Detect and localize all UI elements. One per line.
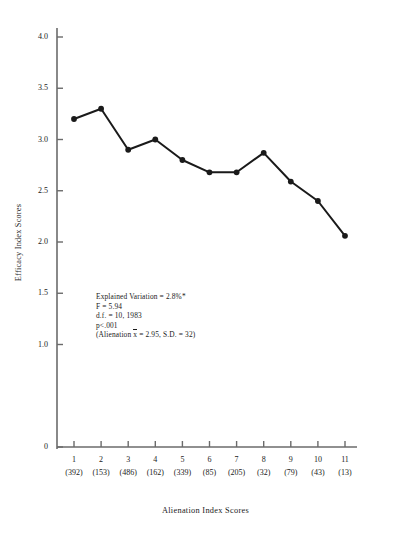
x-axis-tick-label: 11(13) bbox=[325, 455, 365, 477]
data-point-marker[interactable] bbox=[98, 106, 104, 112]
data-point-marker[interactable] bbox=[125, 147, 131, 153]
x-axis-tick-sample-count: (13) bbox=[325, 468, 365, 478]
x-bar-symbol: x bbox=[133, 330, 137, 340]
data-point-marker[interactable] bbox=[288, 179, 294, 185]
data-point-marker[interactable] bbox=[315, 198, 321, 204]
y-axis-tick-label: 0 bbox=[14, 443, 48, 451]
annotation-degrees-of-freedom: d.f. = 10, 1983 bbox=[96, 311, 195, 321]
annotation-alienation-mean: (Alienation x = 2.95, S.D. = 32) bbox=[96, 330, 195, 340]
data-point-marker[interactable] bbox=[234, 169, 240, 175]
y-axis-tick-label: 1.0 bbox=[14, 341, 48, 349]
annotation-explained-variation: Explained Variation = 2.8%* bbox=[96, 292, 195, 302]
x-axis-tick-number: 11 bbox=[325, 455, 365, 465]
annotation-p-value: p<.001 bbox=[96, 321, 195, 331]
y-axis-tick-label: 3.5 bbox=[14, 84, 48, 92]
annotation-f-statistic: F = 5.94 bbox=[96, 302, 195, 312]
chart-figure: Efficacy Index Scores Alienation Index S… bbox=[0, 0, 411, 541]
annotation-mean-suffix: = 2.95, S.D. = 32) bbox=[137, 330, 195, 339]
data-point-marker[interactable] bbox=[152, 137, 158, 143]
y-axis-tick-label: 4.0 bbox=[14, 33, 48, 41]
statistics-annotation: Explained Variation = 2.8%* F = 5.94 d.f… bbox=[96, 292, 195, 340]
y-axis-tick-label: 1.5 bbox=[14, 289, 48, 297]
data-point-marker[interactable] bbox=[71, 116, 77, 122]
y-axis-tick-label: 2.5 bbox=[14, 187, 48, 195]
data-point-marker[interactable] bbox=[180, 157, 186, 163]
y-axis-tick-label: 3.0 bbox=[14, 136, 48, 144]
data-point-marker[interactable] bbox=[207, 169, 213, 175]
data-point-marker[interactable] bbox=[342, 233, 348, 239]
data-point-marker[interactable] bbox=[261, 150, 267, 156]
y-axis-tick-label: 2.0 bbox=[14, 238, 48, 246]
annotation-mean-prefix: (Alienation bbox=[96, 330, 133, 339]
